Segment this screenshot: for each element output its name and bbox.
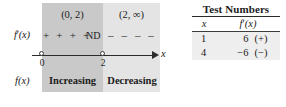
tick-label-2: 2 — [97, 58, 109, 68]
test-numbers-body-grid: 1 6 (+) 4 −6 (−) — [192, 32, 280, 60]
derivative-row-label-arg: (x) — [19, 29, 30, 40]
function-row-label: f(x) — [15, 75, 30, 86]
axis-arrowhead-icon — [152, 51, 159, 59]
cell-sign: (+) — [252, 32, 280, 46]
test-numbers-table: Test Numbers x f′(x) 1 6 (+) 4 −6 (−) — [192, 2, 280, 60]
open-circle-icon-0 — [39, 51, 44, 56]
cell-derivative-value: 6 — [215, 32, 252, 46]
table-row: 4 −6 (−) — [192, 46, 280, 60]
behavior-label-decreasing: Decreasing — [103, 74, 161, 88]
table-title: Test Numbers — [192, 2, 280, 16]
interval-label-2-infinity: (2, ∞) — [103, 8, 160, 22]
cell-x-value: 4 — [192, 46, 215, 60]
derivative-row-label: f′(x) — [14, 29, 30, 40]
cell-x-value: 1 — [192, 32, 215, 46]
column-header-x: x — [192, 17, 216, 31]
table-row: 1 6 (+) — [192, 32, 280, 46]
test-numbers-grid: x f′(x) — [192, 17, 280, 31]
behavior-label-increasing: Increasing — [42, 74, 103, 88]
tick-label-0: 0 — [36, 58, 48, 68]
not-defined-marker: ND — [86, 29, 100, 43]
open-circle-icon-2 — [100, 51, 105, 56]
sign-marks-negative: – – – – — [108, 28, 156, 43]
derivative-sign-chart: (0, 2) (2, ∞) f′(x) + + + + ND – – – – x… — [0, 0, 176, 107]
cell-derivative-value: −6 — [215, 46, 252, 60]
column-header-fprime: f′(x) — [216, 17, 280, 31]
table-header: x f′(x) — [192, 17, 280, 31]
number-line-axis — [32, 55, 154, 56]
cell-sign: (−) — [252, 46, 280, 60]
column-header-fprime-arg: (x) — [245, 18, 257, 29]
table-header-row: x f′(x) — [192, 17, 280, 31]
sign-marks-positive: + + + + — [43, 28, 83, 43]
axis-variable-label: x — [161, 48, 166, 59]
interval-label-0-2: (0, 2) — [42, 8, 103, 22]
